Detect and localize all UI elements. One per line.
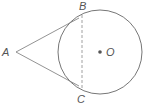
label-a: A <box>1 46 9 58</box>
label-o: O <box>106 46 115 58</box>
tangent-segment-ac <box>16 52 79 86</box>
tangent-segment-ab <box>16 18 79 52</box>
diagram-svg: A B C O <box>0 0 144 111</box>
label-b: B <box>79 0 86 12</box>
label-c: C <box>77 93 85 105</box>
center-point-o <box>98 50 102 54</box>
geometry-diagram: A B C O <box>0 0 144 111</box>
